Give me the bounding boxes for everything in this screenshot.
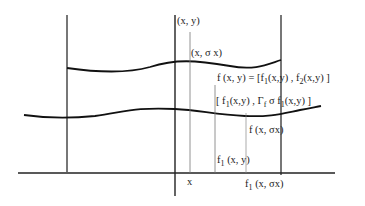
label-f1-xy: f1 (x, y) — [217, 154, 250, 168]
label-f-x-sigma-x: f (x, σx) — [249, 124, 284, 136]
label-point-xy: (x, y) — [177, 15, 200, 27]
label-point-x-sigma-x: (x, σ x) — [191, 47, 223, 59]
label-pair: [ f1(x,y) , Γf σ f1(x,y) ] — [216, 95, 311, 109]
label-f1-x-sigma-x: f1 (x, σx) — [245, 178, 284, 192]
upper-section-curve — [67, 60, 281, 72]
label-f-definition: f (x, y) = [f1(x,y) , f2(x,y) ] — [217, 72, 330, 86]
label-x-axis-x: x — [187, 176, 193, 187]
lower-section-curve — [24, 106, 321, 118]
fiber-bundle-diagram: (x, y) (x, σ x) f (x, y) = [f1(x,y) , f2… — [0, 0, 365, 206]
